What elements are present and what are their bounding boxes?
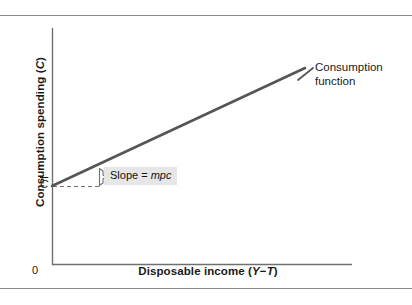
x-axis-title: Disposable income (Y−T) — [118, 265, 298, 279]
intercept-label: C — [40, 178, 48, 192]
y-axis-title-variable: C — [34, 61, 46, 69]
consumption-function-line — [52, 68, 305, 186]
intercept-label-text: C — [40, 178, 48, 190]
x-axis-title-suffix: ) — [274, 265, 278, 277]
curve-label-line-1: Consumption — [315, 61, 383, 73]
curve-label-line-2: function — [315, 75, 355, 87]
consumption-function-figure: Consumption spending (C) Disposable inco… — [0, 0, 412, 305]
curve-label: Consumptionfunction — [315, 60, 407, 89]
x-axis-title-prefix: Disposable income ( — [138, 265, 252, 277]
y-axis-title-suffix: ) — [34, 57, 46, 61]
plot-area — [0, 0, 412, 305]
slope-annotation-prefix: Slope = — [110, 169, 151, 181]
x-axis-title-variable-y: Y — [252, 265, 260, 277]
x-axis-title-operator: − — [260, 265, 267, 277]
origin-label: 0 — [32, 264, 38, 277]
slope-annotation: Slope = mpc — [104, 167, 177, 185]
slope-annotation-value: mpc — [151, 169, 172, 181]
x-axis-title-variable-t: T — [267, 265, 274, 277]
